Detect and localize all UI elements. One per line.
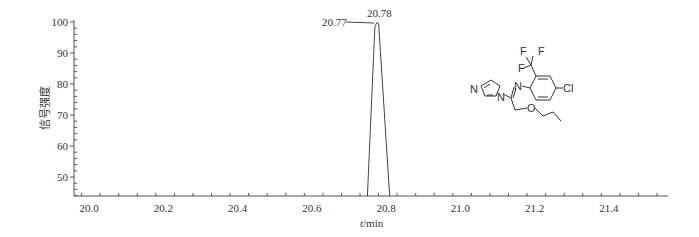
x-tick-label: 20.8 [376, 202, 396, 214]
x-tick-label: 20.4 [228, 202, 248, 214]
y-axis-title: 信号强度 [38, 86, 51, 130]
x-tick-label: 20.2 [154, 202, 173, 214]
svg-text:O: O [527, 102, 536, 114]
x-tick-label: 20.0 [79, 202, 99, 214]
molecule-atom-labels: N N N O F F F Cl [470, 45, 573, 114]
x-tick-label: 21.0 [451, 202, 471, 214]
y-tick-labels: 5060708090100 [52, 16, 69, 183]
y-tick-label: 80 [57, 78, 69, 90]
x-axis-title: t/min [360, 217, 384, 229]
peak-trace [367, 23, 389, 196]
svg-text:F: F [518, 62, 525, 74]
peak-label-20-78: 20.78 [367, 7, 392, 19]
y-tick-label: 70 [57, 109, 69, 121]
svg-text:N: N [470, 83, 478, 95]
x-tick-label: 21.2 [525, 202, 544, 214]
annotation-leader-line [346, 22, 374, 23]
x-tick-labels: 20.020.220.420.620.821.021.221.4 [79, 202, 619, 214]
y-tick-label: 100 [52, 16, 69, 28]
x-tick-label: 21.4 [599, 202, 619, 214]
y-tick-label: 60 [57, 140, 69, 152]
svg-text:F: F [520, 45, 527, 57]
y-tick-label: 90 [57, 47, 69, 59]
y-tick-label: 50 [57, 171, 69, 183]
svg-text:Cl: Cl [563, 82, 573, 94]
chromatogram-chart: 5060708090100 20.020.220.420.620.821.021… [0, 0, 699, 237]
svg-text:N: N [497, 91, 505, 103]
svg-text:N: N [514, 80, 522, 92]
peak-label-20-77: 20.77 [322, 16, 347, 28]
svg-text:F: F [538, 45, 545, 57]
x-tick-label: 20.6 [302, 202, 322, 214]
